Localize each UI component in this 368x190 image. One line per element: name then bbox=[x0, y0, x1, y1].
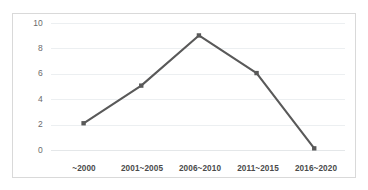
data-point-markers bbox=[81, 33, 316, 150]
data-point-marker-4 bbox=[312, 146, 316, 150]
data-point-marker-0 bbox=[81, 121, 85, 125]
data-point-marker-2 bbox=[197, 33, 201, 37]
data-line-series-1 bbox=[84, 35, 315, 148]
data-point-marker-1 bbox=[139, 83, 143, 87]
chart-frame: 0246810 ~20002001~20052006~20102011~2015… bbox=[12, 13, 356, 178]
plot-area: 0246810 ~20002001~20052006~20102011~2015… bbox=[13, 14, 355, 177]
line-series-layer bbox=[13, 14, 355, 177]
data-point-marker-3 bbox=[254, 71, 258, 75]
